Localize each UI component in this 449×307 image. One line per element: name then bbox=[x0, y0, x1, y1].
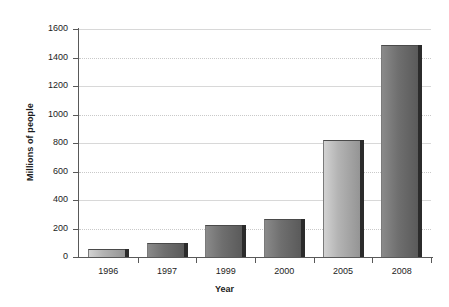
bar-chart: Millions of people 020040060080010001200… bbox=[0, 0, 449, 307]
x-tick-mark bbox=[196, 258, 197, 263]
y-tick-label: 400 bbox=[8, 195, 68, 204]
y-tick-label: 1200 bbox=[8, 81, 68, 90]
y-tick-label: 200 bbox=[8, 224, 68, 233]
x-tick-mark bbox=[138, 258, 139, 263]
x-tick-label: 1997 bbox=[138, 266, 196, 276]
bar bbox=[381, 45, 422, 257]
bar-shadow bbox=[360, 140, 364, 257]
bars-layer bbox=[79, 29, 431, 257]
x-tick-label: 2000 bbox=[255, 266, 313, 276]
bar bbox=[205, 225, 246, 257]
y-tick-label: 600 bbox=[8, 167, 68, 176]
y-tick-label: 1600 bbox=[8, 24, 68, 33]
y-tick-label: 800 bbox=[8, 138, 68, 147]
x-tick-mark bbox=[314, 258, 315, 263]
y-tick-label: 1400 bbox=[8, 53, 68, 62]
bar bbox=[323, 140, 364, 257]
bar-shadow bbox=[418, 45, 422, 257]
bar bbox=[264, 219, 305, 257]
x-tick-mark bbox=[431, 258, 432, 263]
bar-shadow bbox=[184, 243, 188, 257]
x-tick-label: 2005 bbox=[314, 266, 372, 276]
bar bbox=[147, 243, 188, 257]
bar-shadow bbox=[125, 249, 129, 257]
y-tick-label: 0 bbox=[8, 252, 68, 261]
bar-shadow bbox=[242, 225, 246, 257]
x-axis-title: Year bbox=[0, 284, 449, 294]
x-tick-label: 1996 bbox=[79, 266, 137, 276]
x-tick-mark bbox=[372, 258, 373, 263]
bar bbox=[88, 249, 129, 257]
y-tick-mark bbox=[73, 257, 79, 258]
y-tick-label: 1000 bbox=[8, 110, 68, 119]
x-tick-mark bbox=[255, 258, 256, 263]
x-tick-label: 1999 bbox=[197, 266, 255, 276]
x-tick-label: 2008 bbox=[373, 266, 431, 276]
bar-shadow bbox=[301, 219, 305, 257]
